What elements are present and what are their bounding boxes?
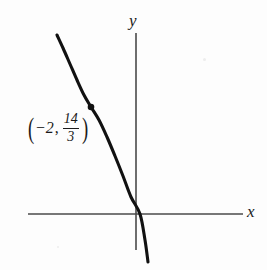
fraction-denominator: 3 (66, 129, 75, 145)
coordinate-y-fraction: 14 3 (63, 112, 79, 144)
x-axis-label: x (247, 203, 255, 220)
fraction-numerator: 14 (63, 112, 79, 128)
graph-figure: y x ( −2 , 14 3 ) (0, 0, 267, 270)
function-curve (57, 35, 148, 262)
open-paren: ( (28, 116, 34, 141)
coordinate-separator: , (55, 120, 59, 136)
paper-speck (203, 58, 206, 61)
point-marker-dot (88, 104, 95, 111)
y-axis-label: y (129, 12, 137, 29)
paper-speck (57, 246, 59, 248)
coordinate-x-value: −2 (35, 120, 54, 136)
point-annotation: ( −2 , 14 3 ) (26, 112, 90, 144)
close-paren: ) (82, 116, 88, 141)
